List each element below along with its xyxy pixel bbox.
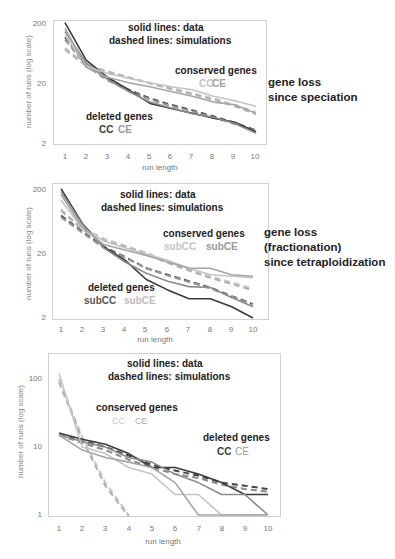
x-tick: 4 — [122, 524, 136, 533]
x-tick: 8 — [215, 524, 229, 533]
series-line — [59, 379, 129, 515]
annotation-solid: solid lines: data — [127, 358, 203, 369]
x-axis-label: run length — [123, 537, 203, 546]
legend-conserved-ce: CE — [135, 416, 148, 426]
legend-deleted-ce: CE — [235, 446, 249, 457]
y-tick: 1 — [20, 510, 42, 519]
annotation-dashed: dashed lines: simulations — [108, 371, 230, 382]
x-tick: 5 — [145, 524, 159, 533]
x-tick: 7 — [192, 524, 206, 533]
legend-conserved-cc: CC — [112, 416, 125, 426]
x-tick: 2 — [75, 524, 89, 533]
plot-area — [0, 0, 395, 559]
legend-deleted-title: deleted genes — [203, 432, 270, 443]
x-tick: 9 — [238, 524, 252, 533]
legend-conserved-title: conserved genes — [96, 402, 178, 413]
x-tick: 10 — [261, 524, 275, 533]
y-tick: 100 — [20, 374, 42, 383]
x-tick: 3 — [98, 524, 112, 533]
legend-deleted-cc: CC — [217, 446, 231, 457]
x-tick: 6 — [168, 524, 182, 533]
y-axis-label: number of runs (log scale) — [16, 385, 25, 478]
x-tick: 1 — [52, 524, 66, 533]
